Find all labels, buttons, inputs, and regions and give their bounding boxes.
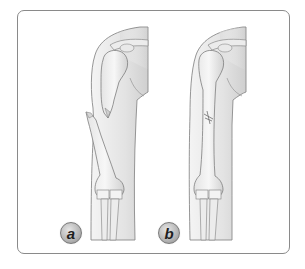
panel-b-label-badge: b — [158, 222, 180, 244]
humerus-fracture-illustration — [0, 0, 305, 269]
panel-b-arm — [189, 27, 246, 240]
panel-a-label-badge: a — [60, 222, 82, 244]
panel-a-arm — [86, 27, 150, 240]
panel-a-label: a — [67, 225, 75, 242]
panel-b-label: b — [164, 225, 173, 242]
